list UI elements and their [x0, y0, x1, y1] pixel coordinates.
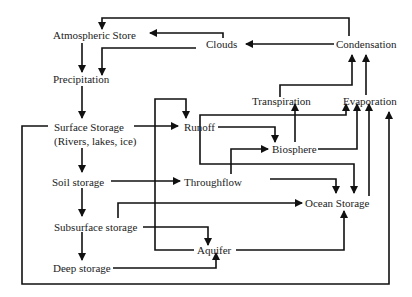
node-throughflow: Throughflow — [184, 176, 242, 188]
node-precipitation: Precipitation — [53, 73, 109, 85]
node-surface-storage-detail: (Rivers, lakes, ice) — [54, 135, 136, 147]
node-runoff: Runoff — [184, 121, 215, 133]
water-cycle-diagram: Atmospheric Store Clouds Condensation Pr… — [0, 0, 412, 297]
node-condensation: Condensation — [336, 38, 397, 50]
node-subsurface-storage: Subsurface storage — [54, 221, 137, 233]
node-soil-storage: Soil storage — [52, 176, 104, 188]
node-evaporation: Evaporation — [343, 95, 397, 107]
node-surface-storage: Surface Storage — [54, 121, 124, 133]
node-transpiration: Transpiration — [252, 95, 311, 107]
node-atmospheric-store: Atmospheric Store — [53, 29, 136, 41]
node-aquifer: Aquifer — [197, 244, 231, 256]
node-ocean-storage: Ocean Storage — [305, 197, 369, 209]
node-biosphere: Biosphere — [272, 143, 317, 155]
node-clouds: Clouds — [206, 38, 237, 50]
node-deep-storage: Deep storage — [53, 262, 111, 274]
